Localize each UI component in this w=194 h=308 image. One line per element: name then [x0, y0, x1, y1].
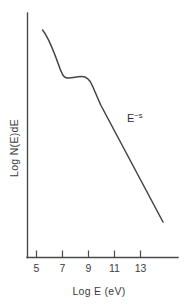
- x-tick-label-3: 11: [109, 262, 120, 274]
- spectrum-curve-path: [43, 30, 164, 222]
- power-law-base: E: [127, 112, 134, 124]
- x-tick-label-0: 5: [34, 262, 40, 274]
- x-axis-title: Log E (eV): [72, 285, 125, 297]
- x-tick-label-2: 9: [86, 262, 92, 274]
- x-tick-label-4: 13: [135, 262, 147, 274]
- x-tick-label-1: 7: [60, 262, 66, 274]
- x-axis-ticks: [37, 251, 141, 258]
- spectrum-figure: 5 7 9 11 13 E−s Log E (eV) Log N(E)dE: [0, 0, 194, 308]
- x-axis-tick-labels: 5 7 9 11 13: [34, 262, 147, 274]
- y-axis-title: Log N(E)dE: [8, 119, 20, 177]
- spectrum-chart: 5 7 9 11 13 E−s Log E (eV) Log N(E)dE: [0, 0, 194, 308]
- power-law-exponent: −s: [134, 111, 142, 120]
- power-law-annotation: E−s: [127, 111, 143, 125]
